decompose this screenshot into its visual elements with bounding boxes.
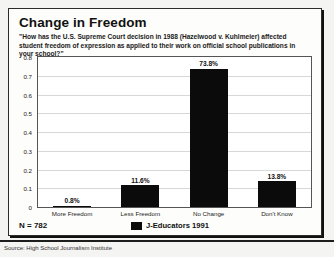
- y-axis-tick-label: 0: [29, 204, 32, 211]
- bar: [53, 206, 91, 208]
- bar-value-label: 0.8%: [65, 197, 80, 204]
- bar-value-label: 13.8%: [268, 173, 287, 180]
- x-axis-tick-label: No Change: [193, 210, 224, 217]
- source-divider: [0, 240, 334, 242]
- x-axis-tick-label: More Freedom: [52, 210, 93, 217]
- y-axis-labels: 0.80.70.60.50.40.30.20.10: [9, 56, 35, 208]
- chart-legend: J-Educators 1991: [131, 221, 209, 230]
- chart-subtitle: "How has the U.S. Supreme Court decision…: [19, 33, 311, 59]
- legend-label: J-Educators 1991: [146, 221, 209, 230]
- source-caption: Source: High School Journalism Institute: [4, 245, 112, 251]
- bar-slot: 13.8%: [258, 57, 296, 207]
- y-axis-tick-label: 0.6: [23, 91, 32, 98]
- bar: [190, 69, 228, 207]
- bar: [258, 181, 296, 207]
- bar-slot: 73.8%: [190, 57, 228, 207]
- y-axis-tick-label: 0.5: [23, 110, 32, 117]
- legend-swatch-icon: [131, 222, 142, 230]
- chart-card: Change in Freedom "How has the U.S. Supr…: [8, 8, 322, 236]
- x-axis-tick-label: Less Freedom: [121, 210, 161, 217]
- plot-area: 0.8%11.6%73.8%13.8%: [37, 56, 312, 208]
- y-axis-tick-label: 0.8: [23, 54, 32, 61]
- page-title: Change in Freedom: [19, 15, 147, 30]
- bar: [121, 185, 159, 207]
- bar-group: 0.8%11.6%73.8%13.8%: [38, 57, 311, 207]
- bar-slot: 11.6%: [121, 57, 159, 207]
- bar-value-label: 11.6%: [131, 177, 149, 184]
- sample-size-label: N = 782: [19, 221, 47, 230]
- screenshot-root: Change in Freedom "How has the U.S. Supr…: [0, 0, 334, 257]
- bar-value-label: 73.8%: [199, 60, 218, 67]
- x-axis-tick-label: Don't Know: [261, 210, 292, 217]
- y-axis-tick-label: 0.1: [23, 185, 32, 192]
- y-axis-tick-label: 0.3: [23, 147, 32, 154]
- y-axis-tick-label: 0.2: [23, 166, 32, 173]
- y-axis-tick-label: 0.4: [23, 129, 32, 136]
- y-axis-tick-label: 0.7: [23, 72, 32, 79]
- bar-slot: 0.8%: [53, 57, 91, 207]
